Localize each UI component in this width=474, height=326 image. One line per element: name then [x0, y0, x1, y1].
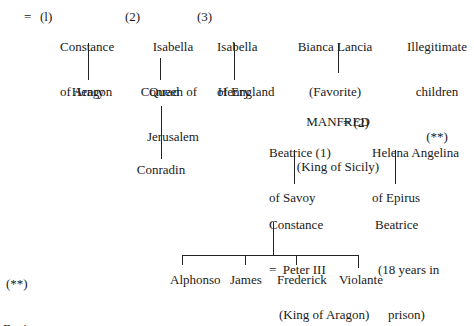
- ggchild-james: James: [230, 272, 262, 287]
- child-henry-1: Henry: [60, 84, 116, 99]
- line-james: [245, 255, 246, 265]
- manfred-marriage-equals: = (2): [343, 115, 369, 130]
- spouse3-number: (3): [197, 9, 212, 24]
- name-line: Beatrice (1): [269, 145, 331, 160]
- line-constance-children: [273, 222, 274, 255]
- line-isabella-henry: [234, 43, 235, 80]
- footnote-item: Enzio: [3, 321, 111, 326]
- name-line: Jerusalem: [142, 129, 204, 144]
- line-isabella-conrad: [160, 58, 161, 80]
- grandchild-conradin: Conradin: [130, 162, 192, 177]
- name-line: Helena Angelina: [372, 145, 459, 160]
- child-henry-2: Henry: [206, 84, 262, 99]
- name-line: prison): [375, 307, 439, 322]
- name-line: Illegitimate: [400, 39, 474, 54]
- ggchild-alphonso: Alphonso: [170, 272, 221, 287]
- spouse1-number: (l): [40, 9, 52, 24]
- line-frederick: [296, 255, 297, 265]
- name-line: (King of Aragon): [269, 307, 369, 322]
- name-line: Isabella: [142, 39, 204, 54]
- name-line: children: [400, 84, 474, 99]
- name-line: Isabella: [217, 39, 274, 54]
- grandchild-constance: Constance = Peter III (King of Aragon): [269, 187, 369, 326]
- footnote-illegitimate: (**) Enzio Richard of Theate Frederick o…: [3, 246, 111, 326]
- name-line: Constance: [269, 217, 369, 232]
- line-helena-beatrice: [395, 150, 396, 184]
- line-violante: [358, 255, 359, 268]
- line-constance-henry: [88, 43, 89, 80]
- ggchild-frederick: Frederick: [277, 272, 327, 287]
- footnote-mark: (**): [3, 276, 111, 291]
- line-conrad-conradin: [161, 106, 162, 159]
- child-conrad: Conrad: [132, 84, 188, 99]
- name-line: (18 years in: [375, 262, 439, 277]
- line-alphonso: [182, 255, 183, 265]
- name-line: Bianca Lancia: [290, 39, 380, 54]
- spouse2-number: (2): [125, 9, 140, 24]
- name-line: Beatrice: [375, 217, 439, 232]
- grandchild-beatrice: Beatrice (18 years in prison): [375, 187, 439, 326]
- line-siblings-bar: [182, 255, 359, 256]
- line-beatrice-constance: [294, 150, 295, 184]
- ggchild-violante: Violante: [339, 272, 383, 287]
- marriage-equals: =: [24, 9, 31, 24]
- line-bianca-manfred: [338, 43, 339, 73]
